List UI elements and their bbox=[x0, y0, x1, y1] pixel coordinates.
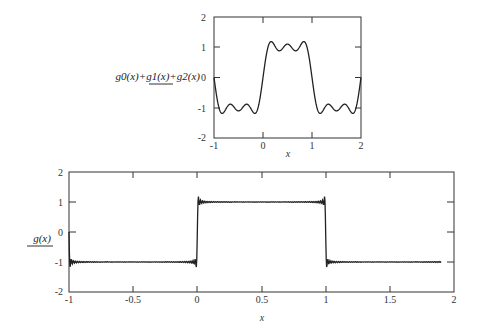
top-y-ticks bbox=[214, 17, 361, 138]
bottom-ticks bbox=[69, 172, 454, 292]
bottom-y-tick-2: 2 bbox=[58, 167, 63, 178]
top-plot-frame bbox=[214, 17, 361, 138]
top-x-tick-1: 1 bbox=[310, 140, 315, 151]
bottom-y-tick-neg2: -2 bbox=[55, 286, 63, 297]
bottom-x-tick-1-5: 1.5 bbox=[384, 294, 397, 305]
bottom-plot: 2 1 0 -1 -2 -1 -0.5 0 0.5 1 1.5 2 x g(x) bbox=[27, 167, 457, 323]
top-x-tick-0: 0 bbox=[261, 140, 266, 151]
top-y-tick-2: 2 bbox=[201, 12, 206, 23]
bottom-y-tick-1: 1 bbox=[58, 197, 63, 208]
bottom-x-tick-neg1: -1 bbox=[65, 294, 73, 305]
bottom-x-tick-1: 1 bbox=[324, 294, 329, 305]
top-y-tick-0: 0 bbox=[201, 72, 206, 83]
bottom-plot-frame bbox=[69, 172, 454, 292]
bottom-y-tick-0: 0 bbox=[58, 227, 63, 238]
top-x-tick-neg1: -1 bbox=[210, 140, 218, 151]
top-plot: 2 1 0 -1 -2 -1 0 1 2 x g0(x)+g1(x)+g2(x) bbox=[116, 12, 364, 159]
top-y-tick-1: 1 bbox=[201, 42, 206, 53]
top-y-tick-neg2: -2 bbox=[198, 132, 206, 143]
top-curve bbox=[214, 42, 361, 114]
bottom-y-tick-neg1: -1 bbox=[55, 257, 63, 268]
bottom-x-tick-0: 0 bbox=[195, 294, 200, 305]
bottom-x-axis-title: x bbox=[259, 312, 265, 323]
bottom-x-tick-0-5: 0.5 bbox=[256, 294, 269, 305]
bottom-x-tick-neg0-5: -0.5 bbox=[125, 294, 141, 305]
top-x-tick-2: 2 bbox=[359, 140, 364, 151]
top-y-tick-neg1: -1 bbox=[198, 103, 206, 114]
bottom-function-label: g(x) bbox=[33, 232, 51, 245]
bottom-x-tick-2: 2 bbox=[452, 294, 457, 305]
figure: 2 1 0 -1 -2 -1 0 1 2 x g0(x)+g1(x)+g2(x)… bbox=[0, 0, 480, 336]
top-x-axis-title: x bbox=[285, 148, 291, 159]
bottom-curve bbox=[69, 197, 441, 267]
top-function-label: g0(x)+g1(x)+g2(x) bbox=[116, 70, 201, 83]
